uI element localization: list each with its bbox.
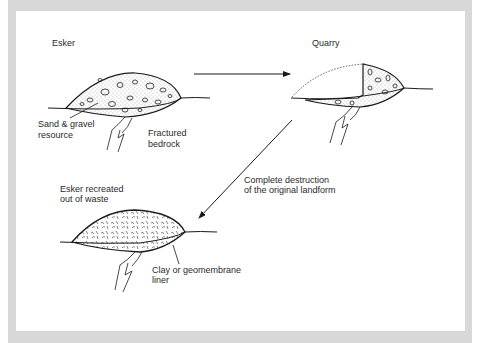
waste-mound (72, 210, 185, 252)
remaining-gravel (305, 64, 404, 107)
label-out-of-waste: out of waste (60, 194, 109, 205)
label-bedrock: bedrock (148, 139, 180, 150)
label-fractured: Fractured (148, 128, 187, 139)
leader-line (173, 245, 179, 264)
label-esker: Esker (52, 38, 75, 49)
esker-recreated (60, 210, 217, 292)
label-resource: resource (38, 130, 73, 141)
original-profile-dotted (292, 64, 365, 97)
label-liner: liner (152, 275, 169, 286)
label-sand-gravel: Sand & gravel (38, 119, 95, 130)
label-esker-recreated: Esker recreated (60, 184, 124, 195)
diagram-canvas (0, 0, 488, 343)
bedrock-fractures (115, 252, 142, 292)
bedrock-fractures (330, 106, 360, 145)
label-quarry: Quarry (312, 38, 340, 49)
quarry (291, 64, 433, 145)
caption-destruction-line2: of the original landform (244, 185, 336, 196)
label-clay-geomembrane: Clay or geomembrane (152, 265, 241, 276)
arrow-to-recreated (199, 120, 292, 218)
bedrock-fractures (107, 117, 132, 152)
caption-destruction-line1: Complete destruction (244, 175, 329, 186)
gravel-mound (66, 73, 181, 117)
